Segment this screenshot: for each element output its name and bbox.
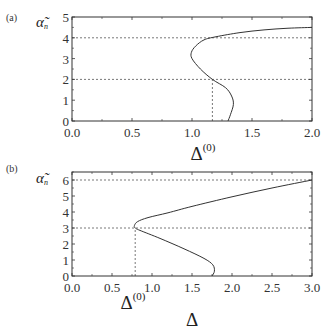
y-tick-label: 5 xyxy=(63,10,70,25)
x-tick-label: 0.5 xyxy=(124,125,140,140)
x-tick-label: 1.5 xyxy=(244,125,260,140)
y-tick-label: 1 xyxy=(63,253,70,268)
x-tick-label: 1.0 xyxy=(184,125,200,140)
figure: 0.00.51.01.52.0012345(a)α̃nΔ(0)0.00.51.0… xyxy=(0,0,327,335)
y-tick-label: 4 xyxy=(63,31,70,46)
x-tick-label: 2.5 xyxy=(264,280,280,295)
x-tick-label: 2.0 xyxy=(304,125,320,140)
y-axis-label: α̃n xyxy=(36,14,50,31)
y-tick-label: 5 xyxy=(63,189,70,204)
y-tick-label: 0 xyxy=(63,114,70,129)
x-tick-label: 2.0 xyxy=(224,280,240,295)
y-tick-label: 2 xyxy=(63,72,70,87)
x-tick-label: 1.0 xyxy=(144,280,160,295)
x-tick-label: 1.5 xyxy=(184,280,200,295)
panel-label: (b) xyxy=(6,163,18,175)
data-curve xyxy=(191,27,312,121)
panel-label: (a) xyxy=(6,12,17,24)
y-tick-label: 0 xyxy=(63,269,70,284)
y-tick-label: 4 xyxy=(63,205,70,220)
y-tick-label: 3 xyxy=(63,52,70,67)
y-tick-label: 6 xyxy=(63,173,70,188)
y-tick-label: 1 xyxy=(63,93,70,108)
y-tick-label: 2 xyxy=(63,237,70,252)
y-axis-label: α̃n xyxy=(36,170,50,187)
x-axis-label: Δ(0) xyxy=(190,141,215,164)
plot-frame xyxy=(72,17,312,121)
panel-a: 0.00.51.01.52.0012345(a)α̃nΔ(0) xyxy=(6,10,320,164)
x-axis-label: Δ xyxy=(186,309,198,330)
delta0-marker-label: Δ(0) xyxy=(120,290,145,313)
x-tick-label: 0.5 xyxy=(104,280,120,295)
x-tick-label: 3.0 xyxy=(304,280,320,295)
y-tick-label: 3 xyxy=(63,221,70,236)
panel-b: 0.00.51.01.52.02.53.00123456(b)α̃nΔ(0)Δ xyxy=(6,163,320,330)
